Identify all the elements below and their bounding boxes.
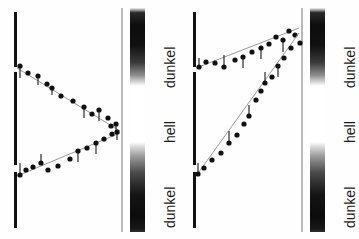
data-point — [269, 74, 274, 79]
data-point — [96, 107, 101, 112]
data-point — [17, 63, 22, 68]
data-point — [241, 121, 246, 126]
data-point — [249, 49, 254, 54]
data-point — [258, 88, 263, 93]
data-point — [218, 150, 223, 155]
data-point — [84, 145, 89, 150]
data-point — [114, 129, 119, 134]
data-point — [297, 40, 302, 45]
figure-root: dunkel hell dunkel dunkel hell dunkel — [0, 0, 359, 239]
data-point — [234, 132, 239, 137]
data-point — [246, 113, 251, 118]
data-point — [35, 73, 40, 78]
data-point — [258, 45, 263, 50]
right-panel: dunkel hell dunkel — [179, 0, 359, 239]
data-point — [108, 123, 113, 128]
data-point — [201, 165, 206, 170]
data-point — [81, 104, 86, 109]
data-point — [49, 85, 54, 90]
data-point — [30, 164, 35, 169]
data-point — [67, 156, 72, 161]
data-point — [93, 140, 98, 145]
data-point — [17, 172, 22, 177]
data-point — [58, 93, 63, 98]
data-point — [288, 45, 293, 50]
data-point — [273, 34, 278, 39]
data-point — [203, 59, 208, 64]
data-point — [45, 167, 50, 172]
data-traces — [0, 0, 179, 239]
data-point — [25, 70, 30, 75]
data-point — [253, 97, 258, 102]
data-traces — [179, 0, 359, 239]
data-point — [55, 163, 60, 168]
data-point — [240, 54, 245, 59]
data-point — [113, 121, 118, 126]
left-panel: dunkel hell dunkel — [0, 0, 179, 239]
data-point — [266, 41, 271, 46]
data-point — [195, 171, 200, 176]
data-point — [38, 160, 43, 165]
data-point — [101, 136, 106, 141]
data-point — [286, 28, 291, 33]
data-point — [221, 64, 226, 69]
data-point — [209, 157, 214, 162]
data-point — [44, 81, 49, 86]
guide-line — [196, 33, 299, 176]
data-point — [70, 98, 75, 103]
data-point — [232, 57, 237, 62]
data-point — [275, 63, 280, 68]
data-point — [75, 148, 80, 153]
data-point — [281, 55, 286, 60]
data-point — [212, 60, 217, 65]
data-point — [105, 115, 110, 120]
data-point — [280, 37, 285, 42]
data-point — [262, 80, 267, 85]
data-point — [109, 131, 114, 136]
data-point — [23, 167, 28, 172]
data-point — [226, 140, 231, 145]
data-point — [89, 111, 94, 116]
guide-line — [17, 68, 120, 131]
data-point — [196, 64, 201, 69]
